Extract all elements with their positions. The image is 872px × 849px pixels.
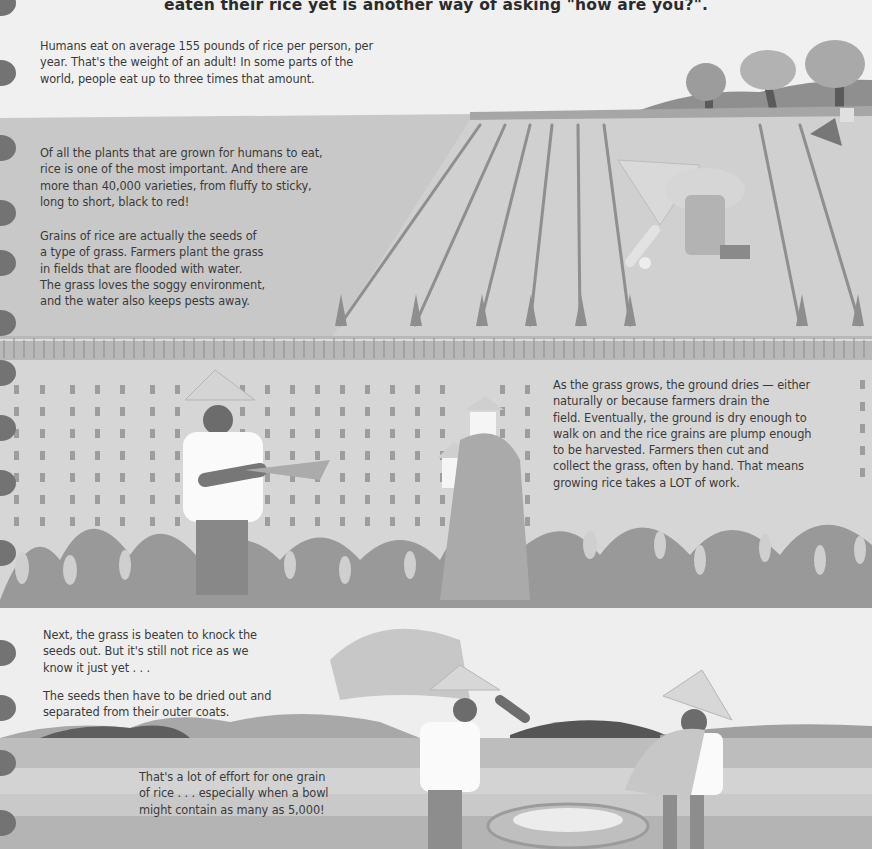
paragraph-grains: Grains of rice are actually the seeds of… [40, 228, 265, 309]
header-caption: eaten their rice yet is another way of a… [0, 0, 872, 14]
paragraph-drying: The seeds then have to be dried out and … [43, 688, 271, 721]
paragraph-harvest: As the grass grows, the ground dries — e… [553, 377, 812, 491]
paragraph-effort: That's a lot of effort for one grain of … [139, 769, 328, 818]
paragraph-importance: Of all the plants that are grown for hum… [40, 145, 323, 210]
book-page: eaten their rice yet is another way of a… [0, 0, 872, 849]
paragraph-consumption: Humans eat on average 155 pounds of rice… [40, 38, 373, 87]
paragraph-threshing: Next, the grass is beaten to knock the s… [43, 627, 257, 676]
